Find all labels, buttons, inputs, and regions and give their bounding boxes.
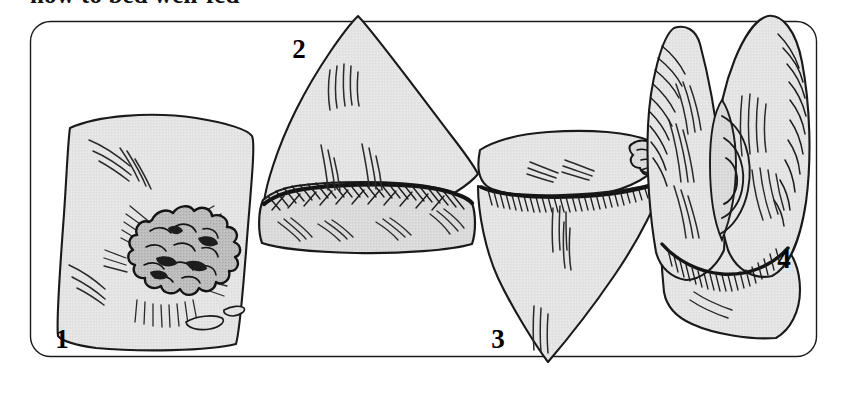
panel-3-second-fold: 3 [478,131,669,362]
step-label-2: 2 [292,34,306,64]
step-label-3: 3 [491,324,505,354]
step-label-1: 1 [55,324,69,354]
panel-1-flat-cloth: 1 [55,115,253,354]
panel-2-first-fold: 2 [259,16,478,253]
cloth-3-triangle [478,180,662,362]
step-label-4: 4 [777,244,791,274]
illustration-canvas: 1 [0,0,845,394]
panel-4-gathered-bundle: 4 [647,16,809,339]
figure-root: how to bed well-fed [0,0,845,394]
